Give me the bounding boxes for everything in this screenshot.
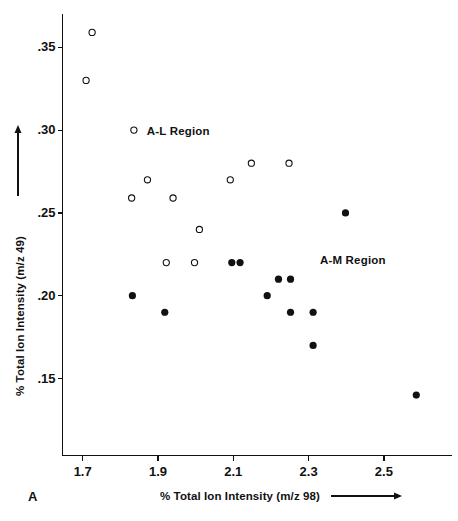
- data-point: [287, 276, 294, 283]
- panel-label: A: [28, 489, 37, 504]
- y-axis-tick-label: .20: [24, 288, 56, 303]
- data-point: [228, 259, 235, 266]
- x-axis-arrow-icon: [331, 493, 402, 500]
- data-point: [131, 127, 137, 133]
- data-point: [264, 292, 271, 299]
- y-axis-tick-label: .35: [24, 39, 56, 54]
- y-axis-tick-label: .25: [24, 205, 56, 220]
- data-point: [310, 342, 317, 349]
- data-point: [275, 276, 282, 283]
- data-point: [196, 226, 202, 232]
- data-point: [89, 29, 95, 35]
- annotation-a-l-region: A-L Region: [147, 125, 210, 137]
- x-axis-tick-label: 1.9: [138, 464, 178, 479]
- annotation-a-m-region: A-M Region: [320, 254, 386, 266]
- data-point: [129, 292, 136, 299]
- data-point: [227, 177, 233, 183]
- scatter-plot: [0, 0, 458, 521]
- data-point: [129, 195, 135, 201]
- x-axis-title: % Total Ion Intensity (m/z 98): [160, 490, 320, 502]
- series-a-l-region: [83, 29, 292, 265]
- data-point: [236, 259, 243, 266]
- series-a-m-region: [129, 209, 420, 398]
- data-point: [413, 391, 420, 398]
- y-axis-tick-label: .30: [24, 122, 56, 137]
- x-axis-tick-label: 2.1: [213, 464, 253, 479]
- data-point: [342, 209, 349, 216]
- x-axis-tick-label: 1.7: [63, 464, 103, 479]
- y-axis-arrow-icon: [15, 125, 22, 196]
- y-axis-tick-label: .15: [24, 371, 56, 386]
- data-point: [248, 160, 254, 166]
- x-axis-tick-label: 2.5: [364, 464, 404, 479]
- data-point: [310, 309, 317, 316]
- x-axis-tick-label: 2.3: [289, 464, 329, 479]
- data-point: [191, 259, 197, 265]
- y-axis-title: % Total Ion Intensity (m/z 49): [14, 236, 26, 396]
- figure-panel-a: .35 .30 .25 .20 .15 1.7 1.9 2.1 2.3 2.5 …: [0, 0, 458, 521]
- data-point: [144, 177, 150, 183]
- data-point: [286, 160, 292, 166]
- data-point: [83, 77, 89, 83]
- data-point: [161, 309, 168, 316]
- data-point: [163, 259, 169, 265]
- data-point: [287, 309, 294, 316]
- data-point: [170, 195, 176, 201]
